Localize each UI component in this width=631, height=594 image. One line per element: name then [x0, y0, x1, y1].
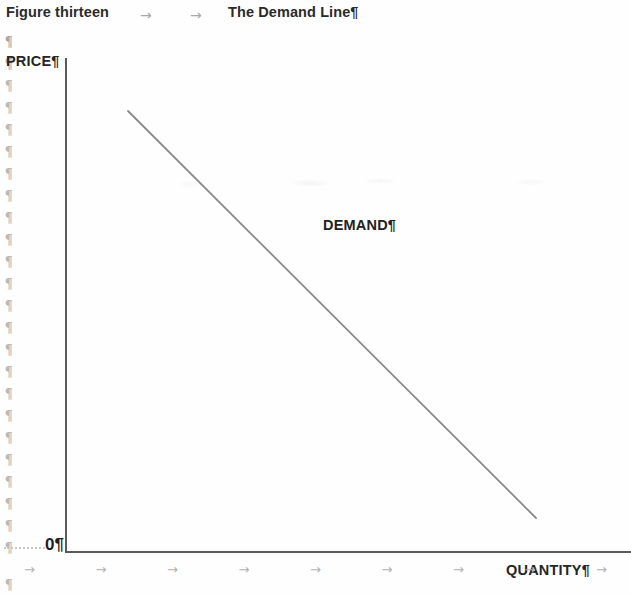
demand-annotation-label: DEMAND¶	[323, 217, 396, 233]
paragraph-mark: ¶	[5, 272, 31, 294]
paragraph-mark: ¶	[5, 74, 31, 96]
paragraph-mark: ¶	[5, 448, 31, 470]
y-axis-label: PRICE¶	[6, 53, 60, 69]
paragraph-mark: ¶	[5, 514, 31, 536]
pilcrow-icon: ¶	[5, 210, 13, 225]
paragraph-mark: ¶	[5, 184, 31, 206]
pilcrow-icon: ¶	[5, 298, 13, 313]
pilcrow-icon: ¶	[5, 320, 13, 335]
paragraph-mark: ¶	[5, 578, 13, 592]
tab-arrow-icon: →	[167, 563, 178, 576]
tab-arrow-icon: →	[596, 563, 607, 576]
document-page: Figure thirteen → → The Demand Line¶ ¶¶¶…	[0, 0, 631, 594]
tab-arrow-icon: →	[96, 563, 107, 576]
paragraph-mark: ¶	[5, 360, 31, 382]
tab-arrow-icon: →	[239, 563, 250, 576]
figure-caption-right: The Demand Line¶	[228, 4, 359, 20]
pilcrow-icon: ¶	[5, 100, 13, 115]
tab-arrow-icon: →	[525, 563, 536, 576]
pilcrow-icon: ¶	[5, 188, 13, 203]
pilcrow-icon: ¶	[5, 408, 13, 423]
pilcrow-icon: ¶	[5, 474, 13, 489]
bottom-tab-arrow-row: →→→→→→→→→	[0, 563, 631, 583]
pilcrow-icon: ¶	[5, 364, 13, 379]
scan-artifact	[130, 172, 600, 194]
pilcrow-icon: ¶	[5, 276, 13, 291]
pilcrow-icon: ¶	[5, 144, 13, 159]
tab-arrow-icon: →	[310, 563, 321, 576]
tab-arrow-icon: →	[453, 563, 464, 576]
paragraph-mark: ¶	[5, 426, 31, 448]
paragraph-mark: ¶	[5, 294, 31, 316]
paragraph-mark: ¶	[5, 470, 31, 492]
pilcrow-icon: ¶	[5, 342, 13, 357]
paragraph-mark: ¶	[5, 96, 31, 118]
tab-arrow-icon: →	[382, 563, 393, 576]
paragraph-mark: ¶	[5, 338, 31, 360]
paragraph-mark: ¶	[5, 30, 31, 52]
tab-arrow-icon: →	[190, 8, 202, 22]
paragraph-mark: ¶	[5, 316, 31, 338]
pilcrow-icon: ¶	[5, 496, 13, 511]
leader-dots	[4, 547, 45, 551]
pilcrow-icon: ¶	[5, 166, 13, 181]
y-axis-line	[65, 58, 67, 552]
pilcrow-icon: ¶	[5, 452, 13, 467]
pilcrow-icon: ¶	[5, 430, 13, 445]
pilcrow-icon: ¶	[5, 254, 13, 269]
pilcrow-icon: ¶	[5, 122, 13, 137]
paragraph-mark: ¶	[5, 206, 31, 228]
paragraph-mark-column: ¶¶¶¶¶¶¶¶¶¶¶¶¶¶¶¶¶¶¶¶¶¶¶¶	[5, 30, 31, 558]
pilcrow-icon: ¶	[5, 386, 13, 401]
pilcrow-icon: ¶	[5, 34, 13, 49]
pilcrow-icon: ¶	[5, 78, 13, 93]
paragraph-mark: ¶	[5, 140, 31, 162]
x-axis-line	[65, 551, 631, 553]
pilcrow-icon: ¶	[5, 518, 13, 533]
paragraph-mark: ¶	[5, 250, 31, 272]
demand-curve-chart	[0, 0, 631, 594]
paragraph-mark: ¶	[5, 228, 31, 250]
pilcrow-icon: ¶	[5, 232, 13, 247]
paragraph-mark: ¶	[5, 404, 31, 426]
tab-arrow-icon: →	[140, 8, 152, 22]
paragraph-mark: ¶	[5, 382, 31, 404]
figure-caption-left: Figure thirteen	[6, 4, 109, 20]
paragraph-mark: ¶	[5, 162, 31, 184]
origin-label: 0¶	[45, 535, 64, 555]
paragraph-mark: ¶	[5, 118, 31, 140]
tab-arrow-icon: →	[24, 563, 35, 576]
paragraph-mark: ¶	[5, 492, 31, 514]
